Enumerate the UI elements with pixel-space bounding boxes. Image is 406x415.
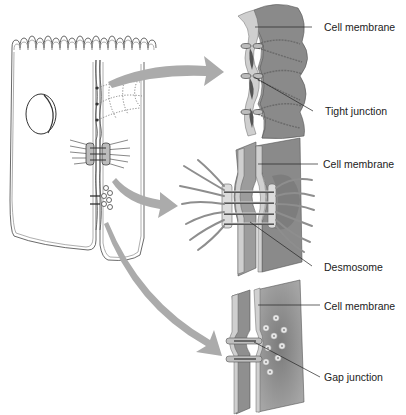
epithelial-cells-illustration <box>10 36 156 260</box>
gap-junction-panel <box>226 280 320 414</box>
label-tight-cell-membrane: Cell membrane <box>324 21 395 33</box>
label-gap-junction: Gap junction <box>324 371 383 383</box>
tight-junction-panel <box>238 4 313 138</box>
label-tight-junction: Tight junction <box>325 105 387 117</box>
desmosome-panel <box>180 138 318 276</box>
label-desmosome-cell-membrane: Cell membrane <box>323 158 394 170</box>
cell-junctions-diagram <box>0 0 406 415</box>
arrow-to-gap-junction <box>104 222 222 356</box>
arrow-to-desmosome <box>112 178 178 218</box>
arrow-to-tight-junction <box>108 56 224 88</box>
label-gap-cell-membrane: Cell membrane <box>324 300 395 312</box>
label-desmosome: Desmosome <box>324 261 383 273</box>
